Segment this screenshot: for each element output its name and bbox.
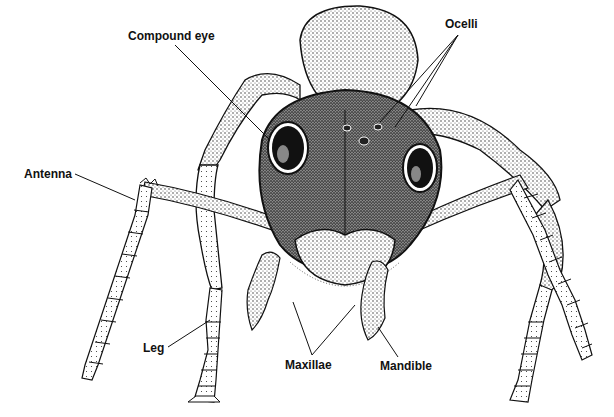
ant-head-illustration (0, 0, 614, 417)
label-ocelli: Ocelli (445, 17, 478, 31)
ant-head-diagram: Compound eye Ocelli Antenna Leg Maxillae… (0, 0, 614, 417)
label-antenna: Antenna (24, 167, 72, 181)
label-mandible: Mandible (380, 359, 432, 373)
label-maxillae: Maxillae (285, 358, 332, 372)
label-compound-eye: Compound eye (128, 29, 215, 43)
label-leg: Leg (143, 341, 164, 355)
